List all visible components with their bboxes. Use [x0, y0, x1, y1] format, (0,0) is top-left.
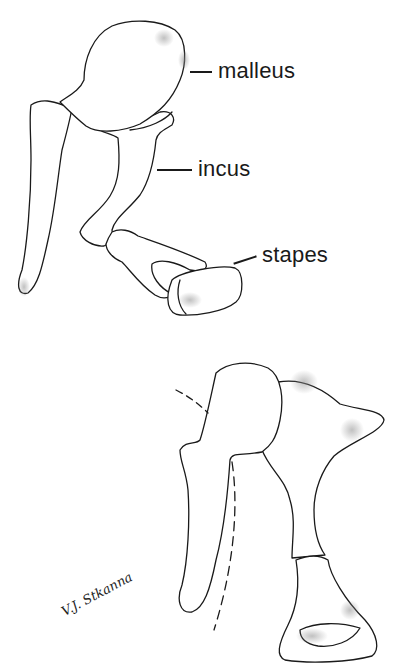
incus-leader-line: [157, 169, 192, 171]
ossicles-illustration: [0, 0, 398, 669]
malleus-handle: [19, 101, 72, 294]
label-malleus: malleus: [218, 60, 295, 82]
malleus-leader-line: [190, 71, 212, 73]
incus-body: [80, 112, 174, 246]
label-stapes: stapes: [262, 244, 328, 266]
label-incus: incus: [198, 158, 250, 180]
stapes-footplate: [168, 267, 242, 315]
lower-malleus: [179, 363, 282, 612]
